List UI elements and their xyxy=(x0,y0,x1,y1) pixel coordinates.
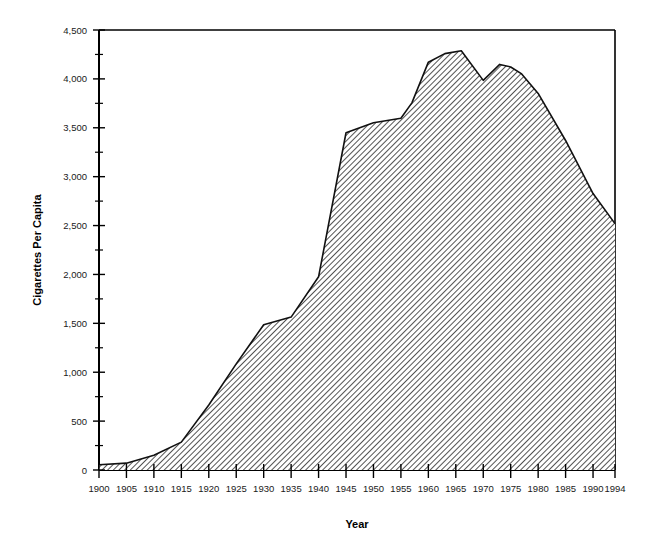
y-tick-label: 1,500 xyxy=(63,318,87,329)
y-tick-label: 4,000 xyxy=(63,73,87,84)
y-tick-label: 1,000 xyxy=(63,367,87,378)
x-tick-label: 1900 xyxy=(88,483,109,494)
chart-canvas: 05001,0001,5002,0002,5003,0003,5004,0004… xyxy=(0,0,654,546)
x-tick-label: 1915 xyxy=(171,483,192,494)
y-tick-label: 500 xyxy=(71,416,87,427)
y-tick-label: 3,000 xyxy=(63,171,87,182)
x-tick-label: 1930 xyxy=(253,483,274,494)
x-tick-label: 1960 xyxy=(418,483,439,494)
x-tick-label: 1980 xyxy=(528,483,549,494)
y-tick-label: 4,500 xyxy=(63,25,87,36)
cigarettes-per-capita-chart: 05001,0001,5002,0002,5003,0003,5004,0004… xyxy=(0,0,654,546)
x-tick-label: 1905 xyxy=(116,483,137,494)
y-tick-label: 0 xyxy=(82,465,87,476)
data-area-series xyxy=(99,51,615,470)
x-tick-label: 1975 xyxy=(500,483,521,494)
x-tick-label: 1940 xyxy=(308,483,329,494)
x-tick-label: 1925 xyxy=(226,483,247,494)
x-tick-label: 1910 xyxy=(143,483,164,494)
x-tick-label: 1920 xyxy=(198,483,219,494)
y-tick-label: 2,000 xyxy=(63,269,87,280)
x-tick-label: 1994 xyxy=(604,483,625,494)
x-tick-label: 1955 xyxy=(390,483,411,494)
x-tick-label: 1945 xyxy=(335,483,356,494)
x-tick-label: 1935 xyxy=(281,483,302,494)
x-tick-label: 1990 xyxy=(582,483,603,494)
y-axis-title: Cigarettes Per Capita xyxy=(31,193,43,305)
x-tick-label: 1985 xyxy=(555,483,576,494)
x-tick-label: 1965 xyxy=(445,483,466,494)
x-tick-label: 1970 xyxy=(473,483,494,494)
y-tick-label: 3,500 xyxy=(63,122,87,133)
x-axis-title: Year xyxy=(345,518,369,530)
data-area-fill xyxy=(99,51,615,470)
x-tick-label: 1950 xyxy=(363,483,384,494)
y-tick-label: 2,500 xyxy=(63,220,87,231)
